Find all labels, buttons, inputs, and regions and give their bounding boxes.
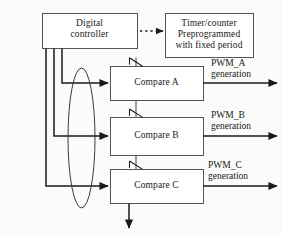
timer-counter-block[interactable] bbox=[165, 13, 253, 57]
signal-bus-ellipse bbox=[68, 68, 95, 208]
controller-to-compare-c-path bbox=[46, 49, 108, 187]
compare-a-block[interactable] bbox=[110, 66, 203, 100]
compare-c-block[interactable] bbox=[110, 169, 203, 203]
controller-to-compare-a-path bbox=[62, 49, 108, 84]
pwm-block-diagram: Digital controller Timer/counter Preprog… bbox=[0, 0, 282, 236]
digital-controller-block[interactable] bbox=[42, 13, 137, 48]
compare-b-block[interactable] bbox=[110, 117, 203, 155]
